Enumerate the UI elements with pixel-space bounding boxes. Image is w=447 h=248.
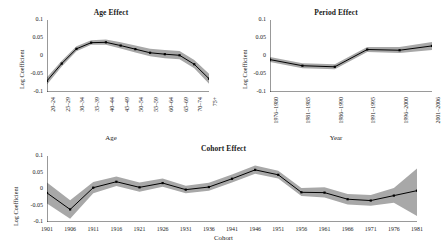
period-effect-panel: Period Effect Log Coefficient Year 0.10.… [225,4,447,144]
y-axis-tick-label: 0.05 [240,34,266,40]
x-axis-tick-label: 1981–1985 [305,97,311,137]
data-point-marker [231,178,233,180]
data-point-marker [399,49,401,51]
x-axis-tick-label: 1916 [103,226,129,232]
y-axis-tick-label: 0.1 [17,16,43,22]
x-axis-tick-label: 1991–1995 [370,97,376,137]
y-axis-tick-label: -0.05 [240,70,266,76]
data-point-marker [178,54,180,56]
x-axis-tick-label: 30–34 [79,97,85,137]
x-axis-tick-label: 1996–2000 [403,97,409,137]
data-point-marker [277,174,279,176]
x-axis-tick-label: 45–49 [124,97,130,137]
x-axis-tick-label: 1971 [358,226,384,232]
data-point-marker [193,63,195,65]
y-axis-tick-label: 0.05 [17,34,43,40]
data-point-marker [208,186,210,188]
age-effect-panel: Age Effect Log Coefficient Age 0.10.050-… [0,4,222,144]
data-point-marker [138,186,140,188]
data-point-marker [254,169,256,171]
data-point-marker [416,190,417,192]
data-point-marker [149,52,151,54]
x-axis-tick-label: 1926 [150,226,176,232]
cohort-effect-x-axis-title: Cohort [0,234,447,241]
x-axis-tick-label: 40–44 [109,97,115,137]
y-axis-tick-label: 0.05 [17,169,43,175]
data-point-marker [208,78,209,80]
x-axis-tick-label: 75+ [212,97,218,137]
cohort-effect-panel: Cohort Effect Log Coefficient Cohort 0.1… [0,142,447,248]
y-axis-tick-label: -0.05 [17,202,43,208]
period-effect-x-axis-title: Year [225,134,447,141]
chart-canvas [47,20,209,92]
x-axis-tick-label: 1901 [34,226,60,232]
data-point-marker [300,191,302,193]
chart-canvas [47,156,417,222]
data-point-marker [162,182,164,184]
x-axis-tick-label: 1946 [242,226,268,232]
x-axis-tick-label: 55–59 [153,97,159,137]
x-axis-tick-label: 1961 [312,226,338,232]
x-axis-tick-label: 35–39 [94,97,100,137]
y-axis-tick-label: -0.05 [17,70,43,76]
x-axis-tick-label: 25–29 [65,97,71,137]
x-axis-tick-label: 1921 [127,226,153,232]
data-point-marker [301,65,303,67]
x-axis-tick-label: 1966 [335,226,361,232]
data-point-marker [75,48,77,50]
x-axis-tick-label: 1956 [288,226,314,232]
y-axis-tick-label: 0.1 [17,152,43,158]
y-axis-tick-label: -0.1 [17,88,43,94]
x-axis-tick-label: 1931 [173,226,199,232]
x-axis-tick-label: 20–24 [50,97,56,137]
y-axis-tick-label: -0.1 [240,88,266,94]
data-point-marker [134,48,136,50]
data-point-marker [120,44,122,46]
period-effect-plot-area [270,20,432,92]
y-axis-tick-label: 0 [240,52,266,58]
y-axis-tick-label: 0.1 [240,16,266,22]
y-axis-tick-label: -0.1 [17,218,43,224]
age-effect-plot-area [47,20,209,92]
y-axis-tick-label: 0 [17,185,43,191]
data-point-marker [105,41,107,43]
x-axis-tick-label: 1936 [196,226,222,232]
confidence-band [47,166,417,219]
x-axis-tick-label: 65–69 [183,97,189,137]
x-axis-tick-label: 50–54 [138,97,144,137]
data-point-marker [323,192,325,194]
data-point-marker [92,187,94,189]
confidence-band [47,39,209,84]
x-axis-tick-label: 1906 [57,226,83,232]
data-point-marker [347,198,349,200]
x-axis-tick-label: 1981 [404,226,430,232]
data-point-marker [366,48,368,50]
x-axis-tick-label: 70–74 [197,97,203,137]
x-axis-tick-label: 60–64 [168,97,174,137]
data-point-marker [164,53,166,55]
chart-canvas [270,20,432,92]
data-point-marker [185,189,187,191]
data-point-marker [115,181,117,183]
data-point-marker [431,45,432,47]
data-point-marker [334,66,336,68]
x-axis-tick-label: 1941 [219,226,245,232]
cohort-effect-plot-area [47,156,417,222]
data-point-marker [370,199,372,201]
x-axis-tick-label: 1911 [80,226,106,232]
data-point-marker [61,62,63,64]
data-point-marker [69,208,71,210]
x-axis-tick-label: 1986–1990 [338,97,344,137]
x-axis-tick-label: 1976–1980 [273,97,279,137]
x-axis-tick-label: 1951 [265,226,291,232]
confidence-band [270,42,432,69]
data-point-marker [90,42,92,44]
data-point-marker [393,195,395,197]
x-axis-tick-label: 2001–2006 [435,97,441,137]
x-axis-tick-label: 1976 [381,226,407,232]
cohort-effect-title: Cohort Effect [0,144,447,153]
y-axis-tick-label: 0 [17,52,43,58]
